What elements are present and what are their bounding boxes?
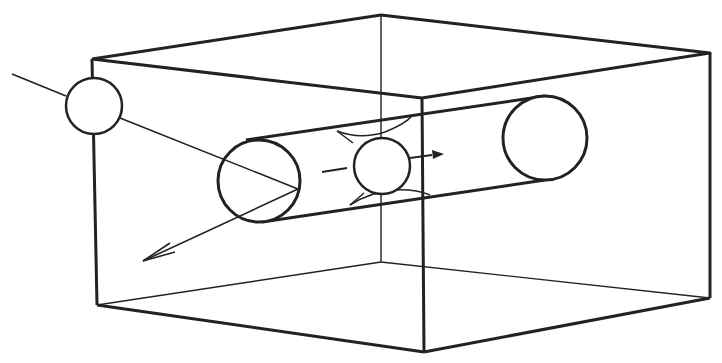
arrow-channel-head bbox=[432, 150, 444, 159]
trajectory-incoming bbox=[12, 74, 298, 189]
diagram-canvas bbox=[0, 0, 722, 363]
box-cylinder-diagram bbox=[0, 0, 722, 363]
sphere-incoming bbox=[66, 78, 122, 134]
sphere-in-channel bbox=[354, 138, 410, 194]
arrow-deflected bbox=[143, 189, 298, 261]
